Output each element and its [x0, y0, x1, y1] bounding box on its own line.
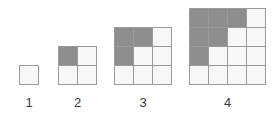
empty-cell: [247, 66, 265, 84]
empty-cell: [20, 66, 38, 84]
grid-4: [189, 8, 266, 85]
figure-2: 2: [58, 0, 97, 114]
empty-cell: [115, 66, 133, 84]
grid-3: [114, 27, 172, 85]
shaded-cell: [209, 9, 227, 27]
shaded-cell: [190, 47, 208, 65]
empty-cell: [153, 47, 171, 65]
empty-cell: [78, 47, 96, 65]
figure-label-2: 2: [58, 95, 97, 110]
grid-2: [58, 46, 97, 85]
figure-1: 1: [19, 0, 39, 114]
empty-cell: [247, 9, 265, 27]
shaded-cell: [134, 28, 152, 46]
shaded-cell: [228, 9, 246, 27]
empty-cell: [228, 28, 246, 46]
empty-cell: [209, 66, 227, 84]
shaded-cell: [115, 47, 133, 65]
empty-cell: [209, 47, 227, 65]
empty-cell: [78, 66, 96, 84]
grid-1: [19, 65, 39, 85]
figure-label-1: 1: [19, 95, 39, 110]
shaded-cell: [115, 28, 133, 46]
shaded-cell: [190, 9, 208, 27]
empty-cell: [134, 66, 152, 84]
figure-label-3: 3: [114, 95, 172, 110]
empty-cell: [190, 66, 208, 84]
figure-3: 3: [114, 0, 172, 114]
figure-sequence-diagram: 1234: [0, 0, 278, 114]
empty-cell: [134, 47, 152, 65]
figure-label-4: 4: [189, 95, 266, 110]
empty-cell: [247, 47, 265, 65]
empty-cell: [228, 47, 246, 65]
shaded-cell: [209, 28, 227, 46]
figure-4: 4: [189, 0, 266, 114]
empty-cell: [153, 28, 171, 46]
empty-cell: [59, 66, 77, 84]
empty-cell: [153, 66, 171, 84]
empty-cell: [247, 28, 265, 46]
empty-cell: [228, 66, 246, 84]
shaded-cell: [59, 47, 77, 65]
shaded-cell: [190, 28, 208, 46]
